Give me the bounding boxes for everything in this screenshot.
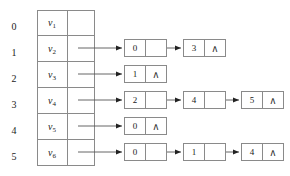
node-pointer-null — [263, 144, 283, 160]
list-node: 0 — [124, 117, 167, 135]
node-value: 4 — [184, 92, 205, 108]
node-value: 0 — [125, 144, 146, 160]
list-node: 5 — [241, 91, 284, 109]
list-node: 1 — [183, 143, 226, 161]
list-node: 1 — [124, 65, 167, 83]
node-value: 0 — [125, 40, 146, 56]
list-node: 2 — [124, 91, 167, 109]
vertex-cell-v5: v5 — [37, 114, 67, 140]
node-value: 4 — [242, 144, 263, 160]
node-value: 5 — [242, 92, 263, 108]
node-pointer-link — [146, 144, 166, 160]
node-pointer-null — [146, 118, 166, 134]
vertex-cell-v4: v4 — [37, 88, 67, 114]
adjacency-list-diagram: 0 1 2 3 4 5 v1 v2 v3 v4 v5 v6 — [0, 0, 290, 176]
node-pointer-link — [146, 92, 166, 108]
index-label-4: 4 — [6, 126, 22, 136]
index-label-5: 5 — [6, 152, 22, 162]
list-node: 0 — [124, 39, 167, 57]
node-value: 1 — [125, 66, 146, 82]
node-value: 3 — [184, 40, 205, 56]
list-node: 3 — [183, 39, 226, 57]
node-pointer-null — [263, 92, 283, 108]
node-pointer-link — [205, 144, 225, 160]
list-node: 0 — [124, 143, 167, 161]
index-label-0: 0 — [6, 22, 22, 32]
list-node: 4 — [183, 91, 226, 109]
node-value: 1 — [184, 144, 205, 160]
node-value: 2 — [125, 92, 146, 108]
index-label-1: 1 — [6, 48, 22, 58]
vertex-cell-v2: v2 — [37, 36, 67, 62]
list-node: 4 — [241, 143, 284, 161]
node-pointer-link — [205, 92, 225, 108]
node-pointer-null — [205, 40, 225, 56]
node-value: 0 — [125, 118, 146, 134]
index-label-2: 2 — [6, 74, 22, 84]
vertex-cell-v6: v6 — [37, 140, 67, 166]
node-pointer-null — [146, 66, 166, 82]
index-label-3: 3 — [6, 100, 22, 110]
vertex-cell-v1: v1 — [37, 10, 67, 36]
vertex-cell-v3: v3 — [37, 62, 67, 88]
node-pointer-link — [146, 40, 166, 56]
